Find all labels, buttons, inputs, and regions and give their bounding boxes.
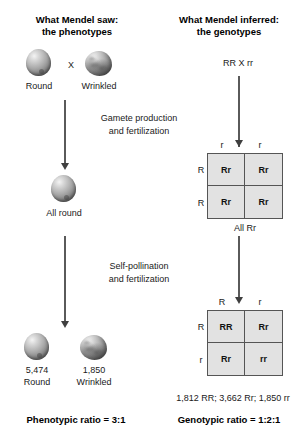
f2-wrinkled-count: 1,850 xyxy=(64,364,124,376)
right-heading-line2: the genotypes xyxy=(156,26,302,38)
cross-symbol: X xyxy=(68,60,74,70)
f2-round-pea-icon xyxy=(24,333,49,360)
f1-round-pea-icon xyxy=(51,175,76,202)
right-column-heading: What Mendel inferred: the genotypes xyxy=(156,14,302,38)
right-heading-line1: What Mendel inferred: xyxy=(156,14,302,26)
punnett1-row-header-0: R xyxy=(194,165,208,175)
punnett2-row-header-0: R xyxy=(194,322,208,332)
punnett-square-2: RR Rr Rr rr xyxy=(207,310,283,376)
right-arrow-1-head xyxy=(235,140,243,147)
punnett2-col-header-0: R xyxy=(215,297,229,307)
step1-line2: and fertilization xyxy=(84,125,194,138)
right-arrow-2-head xyxy=(235,297,243,304)
punnett1-col-header-0: r xyxy=(215,140,229,150)
left-arrow-1-shaft xyxy=(64,100,66,164)
left-heading-line1: What Mendel saw: xyxy=(2,14,152,26)
phenotypic-ratio: Phenotypic ratio = 3:1 xyxy=(2,414,150,425)
step2-caption: Self-pollination and fertilization xyxy=(84,260,194,285)
punnett2-col-header-1: r xyxy=(253,297,267,307)
punnett1-cell-3: Rr xyxy=(245,186,282,218)
punnett2-cell-1: Rr xyxy=(245,311,282,343)
wrinkled-pea-icon xyxy=(85,51,112,76)
f1-genotype-label: All Rr xyxy=(185,222,304,234)
punnett1-col-header-1: r xyxy=(253,140,267,150)
punnett2-cell-0: RR xyxy=(208,311,245,343)
right-line-2 xyxy=(238,236,240,292)
left-arrow-2-shaft xyxy=(64,236,66,322)
right-line-1 xyxy=(238,76,240,132)
left-column-heading: What Mendel saw: the phenotypes xyxy=(2,14,152,38)
punnett1-row-header-1: R xyxy=(194,198,208,208)
parent-wrinkled-label: Wrinkled xyxy=(68,80,130,92)
round-pea-icon xyxy=(26,49,51,76)
left-heading-line2: the phenotypes xyxy=(2,26,152,38)
f1-phenotype-label: All round xyxy=(24,207,104,219)
f2-round-pea xyxy=(24,333,49,360)
punnett1-cell-0: Rr xyxy=(208,154,245,186)
punnett-square-1: Rr Rr Rr Rr xyxy=(207,153,283,219)
left-arrow-1-head xyxy=(61,163,69,170)
left-arrow-2-head xyxy=(61,321,69,328)
parent-round-pea xyxy=(26,49,51,76)
punnett1-cell-2: Rr xyxy=(208,186,245,218)
step2-line2: and fertilization xyxy=(84,273,194,286)
f2-round-count: 5,474 xyxy=(8,364,66,376)
parent-wrinkled-pea xyxy=(85,51,112,76)
punnett2-cell-3: rr xyxy=(245,343,282,375)
step1-caption: Gamete production and fertilization xyxy=(84,112,194,137)
f2-wrinkled-pea-icon xyxy=(80,335,107,360)
f2-genotype-counts: 1,812 RR; 3,662 Rr; 1,850 rr xyxy=(163,392,303,404)
punnett2-cell-2: Rr xyxy=(208,343,245,375)
parent-round-label: Round xyxy=(9,80,69,92)
parent-genotype-cross: RR X rr xyxy=(183,57,293,69)
step1-line1: Gamete production xyxy=(84,112,194,125)
f2-wrinkled-label: Wrinkled xyxy=(64,376,124,388)
f2-wrinkled-pea xyxy=(80,335,107,360)
step2-line1: Self-pollination xyxy=(84,260,194,273)
f2-round-label: Round xyxy=(8,376,66,388)
punnett1-cell-1: Rr xyxy=(245,154,282,186)
punnett2-row-header-1: r xyxy=(194,355,208,365)
f1-round-pea xyxy=(51,175,76,202)
genotypic-ratio: Genotypic ratio = 1:2:1 xyxy=(156,414,302,425)
